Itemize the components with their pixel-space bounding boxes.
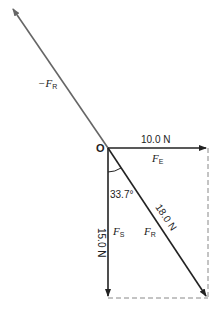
- origin-label: O: [96, 142, 105, 154]
- neg-fr-arrow: [13, 9, 108, 148]
- fe-magnitude: 10.0 N: [141, 134, 170, 145]
- neg-fr-symbol: −FR: [38, 77, 57, 90]
- angle-label: 33.7°: [110, 189, 133, 200]
- fr-arrow: [108, 148, 206, 296]
- fs-magnitude: 15.0 N: [96, 228, 107, 257]
- force-diagram: O 10.0 N FE 33.7° 15.0 N FS 18.0 N FR −F…: [0, 0, 222, 316]
- fe-symbol: FE: [151, 152, 164, 165]
- fr-symbol: FR: [143, 225, 156, 238]
- fr-magnitude: 18.0 N: [153, 202, 179, 233]
- angle-arc: [108, 168, 121, 172]
- fs-symbol: FS: [112, 225, 125, 238]
